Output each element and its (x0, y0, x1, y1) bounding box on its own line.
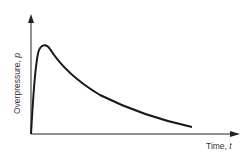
x-axis (31, 131, 240, 137)
x-axis-arrow-icon (230, 131, 240, 137)
overpressure-diagram (0, 0, 250, 164)
overpressure-curve (31, 45, 192, 134)
x-axis-label: Time, t (206, 141, 232, 151)
y-axis-arrow-icon (28, 14, 34, 23)
y-axis-label: Overpressure, p (12, 56, 22, 114)
y-axis (28, 14, 34, 134)
